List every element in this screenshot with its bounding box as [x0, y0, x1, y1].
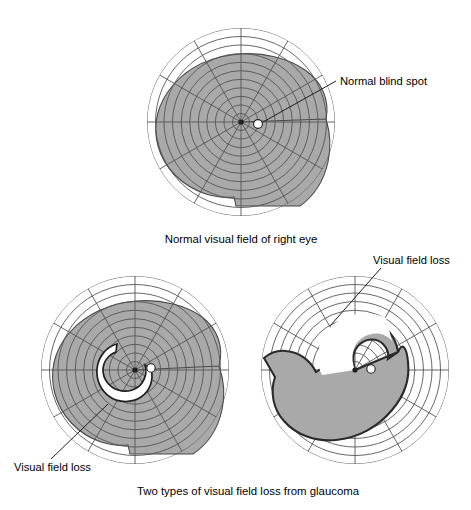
fixation-point — [238, 119, 243, 124]
visual-field-loss-right-label: Visual field loss — [373, 254, 450, 266]
visual-field-diagram-svg: Normal blind spot Normal visual field of… — [0, 0, 471, 510]
visual-field-figure: Normal blind spot Normal visual field of… — [0, 0, 471, 510]
normal-blind-spot-label: Normal blind spot — [340, 75, 428, 87]
advanced-blind-spot-marker — [367, 365, 375, 373]
arcuate-field-region — [53, 301, 224, 454]
normal-blind-spot-marker — [254, 120, 263, 129]
arcuate-blind-spot-marker — [147, 364, 155, 372]
top-caption: Normal visual field of right eye — [165, 233, 318, 245]
fixation-point — [352, 367, 357, 372]
fixation-point — [132, 367, 137, 372]
visual-field-loss-left-label: Visual field loss — [14, 461, 91, 473]
plot-normal-field: Normal blind spot Normal visual field of… — [147, 28, 428, 245]
plot-arcuate-scotoma-field: Visual field loss — [14, 276, 229, 473]
plot-advanced-constriction-field: Visual field loss — [261, 254, 450, 464]
bottom-caption: Two types of visual field loss from glau… — [137, 485, 360, 497]
